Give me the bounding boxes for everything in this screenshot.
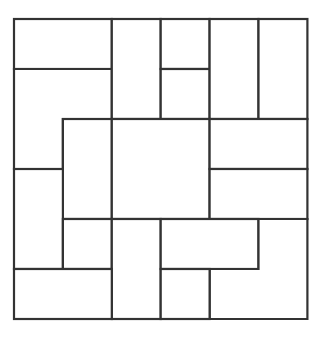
piece-p14 xyxy=(112,219,161,319)
piece-p7 xyxy=(259,19,308,119)
piece-p9 xyxy=(112,119,210,219)
piece-p15 xyxy=(161,219,259,269)
piece-p4 xyxy=(161,19,210,69)
piece-p18 xyxy=(161,269,210,319)
piece-p8 xyxy=(63,119,112,219)
tiling-diagram xyxy=(0,0,322,337)
piece-p5 xyxy=(161,69,210,119)
piece-p3 xyxy=(112,19,161,119)
piece-p13 xyxy=(63,219,112,269)
piece-p1 xyxy=(14,19,112,69)
piece-p12 xyxy=(14,169,63,269)
piece-p10 xyxy=(210,119,308,169)
piece-p6 xyxy=(210,19,259,119)
piece-p11 xyxy=(210,169,308,219)
piece-p17 xyxy=(14,269,112,319)
